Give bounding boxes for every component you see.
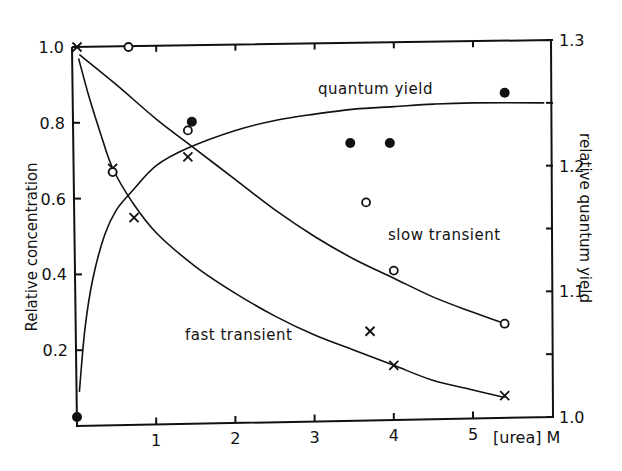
marker-filled-circle: [500, 88, 510, 98]
marker-cross: [366, 327, 375, 336]
marker-filled-circle: [72, 412, 82, 422]
annotation-fast-transient: fast transient: [185, 326, 292, 344]
annotation-quantum-yield: quantum yield: [318, 80, 433, 98]
marker-open-circle: [390, 267, 398, 275]
y-tick-label: 0.4: [42, 265, 67, 284]
fit-curve-slow-transient: [79, 55, 504, 324]
y-axis-left-title: Relative concentration: [23, 162, 41, 331]
y-tick-label: 0.2: [43, 341, 68, 360]
y-axis-right-title: relative quantum yield: [576, 133, 594, 303]
marker-cross: [130, 213, 139, 222]
marker-open-circle: [124, 43, 132, 51]
x-axis-ticks: 12345: [151, 41, 478, 449]
x-tick-label: 1: [151, 431, 161, 450]
y-tick-label: 1.0: [39, 38, 64, 57]
marker-cross: [183, 152, 192, 161]
marker-filled-circle: [345, 138, 355, 148]
marker-open-circle: [501, 320, 509, 328]
x-tick-label: 4: [389, 426, 399, 445]
y-right-tick-label: 1.0: [559, 408, 584, 427]
fit-curve-quantum-yield: [79, 103, 544, 392]
marker-open-circle: [184, 126, 192, 134]
marker-cross: [500, 391, 509, 400]
x-axis-title: [urea] M: [493, 428, 560, 447]
x-tick-label: 2: [230, 429, 240, 448]
marker-open-circle: [362, 198, 370, 206]
plot-area: 12345 0.20.40.60.81.0 1.01.11.21.3: [39, 31, 585, 450]
y-tick-label: 0.6: [41, 190, 66, 209]
marker-cross: [389, 361, 398, 370]
marker-open-circle: [109, 168, 117, 176]
chart-figure: 12345 0.20.40.60.81.0 1.01.11.21.3 Relat…: [0, 0, 622, 471]
marker-filled-circle: [187, 117, 197, 127]
annotation-slow-transient: slow transient: [388, 226, 501, 244]
marker-filled-circle: [385, 138, 395, 148]
y-tick-label: 0.8: [40, 114, 65, 133]
x-tick-label: 3: [310, 428, 320, 447]
x-tick-label: 5: [468, 425, 478, 444]
y-right-tick-label: 1.3: [559, 31, 584, 50]
